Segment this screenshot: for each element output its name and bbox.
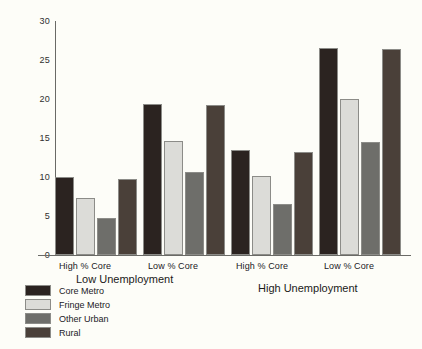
legend-swatch-core-metro bbox=[25, 285, 51, 296]
bar-low-core-other-urban bbox=[185, 172, 204, 255]
bar-group-1 bbox=[143, 21, 227, 255]
legend-item-rural: Rural bbox=[25, 326, 165, 339]
bar-low-core-core-metro bbox=[319, 48, 338, 255]
legend-item-fringe-metro: Fringe Metro bbox=[25, 298, 165, 311]
bar-high-core-fringe-metro bbox=[76, 198, 95, 255]
bar-high-core-core-metro bbox=[231, 150, 250, 255]
bar-high-core-rural bbox=[118, 179, 137, 255]
legend-swatch-rural bbox=[25, 327, 51, 338]
legend-item-core-metro: Core Metro bbox=[25, 284, 165, 297]
legend-swatch-other-urban bbox=[25, 313, 51, 324]
x-axis-line bbox=[38, 255, 411, 256]
category-label-2: High % Core bbox=[236, 261, 288, 271]
bar-high-core-other-urban bbox=[273, 204, 292, 255]
category-label-1: Low % Core bbox=[148, 261, 198, 271]
bar-group-3 bbox=[319, 21, 403, 255]
bar-low-core-fringe-metro bbox=[340, 99, 359, 255]
bar-high-core-other-urban bbox=[97, 218, 116, 255]
legend-label-other-urban: Other Urban bbox=[59, 314, 109, 324]
bar-group-2 bbox=[231, 21, 315, 255]
bar-low-core-other-urban bbox=[361, 142, 380, 255]
bar-chart-figure: 30 25 20 15 10 5 0 High % Core Low % Cor… bbox=[0, 0, 422, 349]
legend: Core Metro Fringe Metro Other Urban Rura… bbox=[25, 284, 165, 340]
legend-item-other-urban: Other Urban bbox=[25, 312, 165, 325]
bar-low-core-rural bbox=[382, 49, 401, 255]
bar-group-0 bbox=[55, 21, 139, 255]
y-tick-15: 15 bbox=[28, 134, 50, 143]
legend-label-fringe-metro: Fringe Metro bbox=[59, 300, 110, 310]
panel-label-high-unemployment: High Unemployment bbox=[258, 282, 358, 294]
y-tick-20: 20 bbox=[28, 95, 50, 104]
bar-high-core-fringe-metro bbox=[252, 176, 271, 255]
bar-low-core-rural bbox=[206, 105, 225, 255]
y-tick-10: 10 bbox=[28, 173, 50, 182]
bar-low-core-fringe-metro bbox=[164, 141, 183, 255]
bar-low-core-core-metro bbox=[143, 104, 162, 255]
category-label-3: Low % Core bbox=[324, 261, 374, 271]
category-label-0: High % Core bbox=[59, 261, 111, 271]
legend-swatch-fringe-metro bbox=[25, 299, 51, 310]
bar-high-core-rural bbox=[294, 152, 313, 255]
plot-area bbox=[55, 21, 402, 255]
legend-label-core-metro: Core Metro bbox=[59, 286, 104, 296]
y-tick-5: 5 bbox=[28, 212, 50, 221]
bar-high-core-core-metro bbox=[55, 177, 74, 255]
legend-label-rural: Rural bbox=[59, 328, 81, 338]
y-tick-30: 30 bbox=[28, 17, 50, 26]
y-tick-25: 25 bbox=[28, 56, 50, 65]
